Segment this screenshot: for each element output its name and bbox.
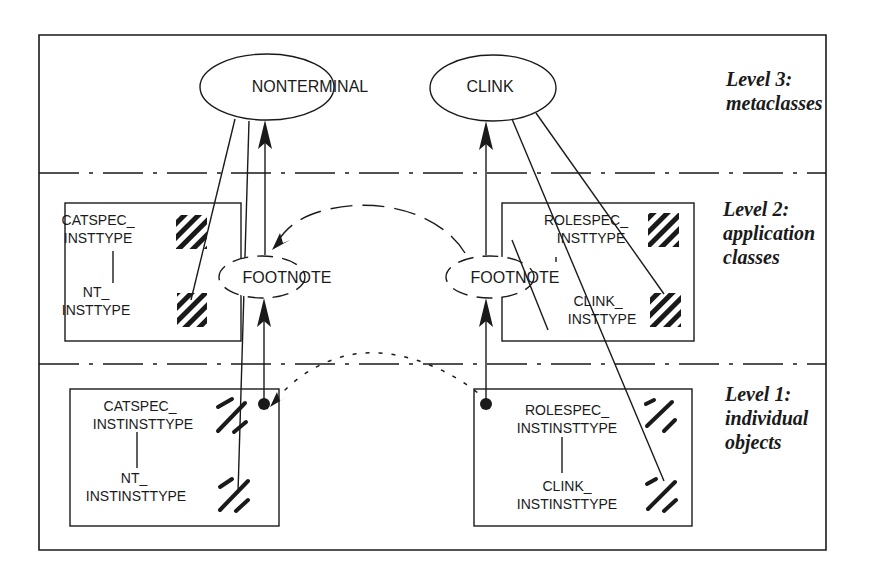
svg-text:INSTINSTTYPE: INSTINSTTYPE	[517, 496, 617, 512]
svg-text:individual: individual	[725, 407, 809, 429]
svg-text:INSTINSTTYPE: INSTINSTTYPE	[93, 416, 193, 432]
svg-text:CATSPEC_: CATSPEC_	[62, 212, 135, 228]
svg-text:CLINK_: CLINK_	[542, 478, 591, 494]
svg-text:INSTTYPE: INSTTYPE	[62, 302, 130, 318]
svg-text:NT_: NT_	[83, 284, 110, 300]
svg-text:NT_: NT_	[121, 470, 148, 486]
level-1-label: Level 1: individual objects	[724, 383, 809, 454]
svg-text:Level 2:: Level 2:	[722, 198, 789, 220]
svg-text:classes: classes	[723, 246, 780, 268]
svg-text:ROLESPEC_: ROLESPEC_	[525, 402, 609, 418]
instance-dot-right	[480, 398, 492, 410]
clink-label: CLINK	[466, 78, 513, 95]
svg-text:CLINK_: CLINK_	[573, 293, 622, 309]
footnote-right-label: FOOTNOTE	[471, 269, 560, 286]
svg-text:INSTTYPE: INSTTYPE	[557, 230, 625, 246]
footnote-link-arc	[278, 205, 465, 253]
svg-text:application: application	[723, 222, 815, 245]
level-2-label: Level 2: application classes	[722, 198, 815, 268]
nonterminal-label: NONTERMINAL	[252, 78, 369, 95]
instance-dot-left	[258, 398, 270, 410]
svg-text:Level 1:: Level 1:	[724, 383, 791, 405]
svg-text:INSTINSTTYPE: INSTINSTTYPE	[517, 420, 617, 436]
svg-text:INSTTYPE: INSTTYPE	[568, 311, 636, 327]
meta-level-diagram: Level 3: metaclasses Level 2: applicatio…	[0, 0, 887, 578]
svg-text:INSTINSTTYPE: INSTINSTTYPE	[86, 488, 186, 504]
svg-text:INSTTYPE: INSTTYPE	[64, 230, 132, 246]
level-3-label: Level 3: metaclasses	[725, 68, 823, 114]
footnote-left-label: FOOTNOTE	[243, 269, 332, 286]
instance-link-arc	[276, 353, 478, 400]
svg-text:metaclasses: metaclasses	[726, 92, 823, 114]
svg-text:CATSPEC_: CATSPEC_	[104, 398, 177, 414]
svg-text:Level 3:: Level 3:	[725, 68, 792, 90]
svg-text:objects: objects	[725, 431, 782, 454]
